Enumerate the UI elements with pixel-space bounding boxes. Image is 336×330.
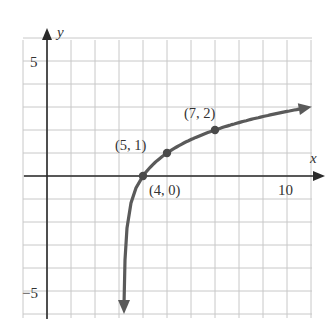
y-axis-arrow-icon [42,28,52,40]
tick-label-y5: 5 [30,54,38,70]
point-7-2 [211,126,219,134]
point-label-4-0: (4, 0) [149,182,181,199]
x-axis-arrow-icon [313,171,325,181]
point-label-7-2: (7, 2) [184,105,216,122]
tick-label-y-neg5: −5 [22,285,38,301]
x-axis-label: x [309,150,317,166]
point-label-5-1: (5, 1) [115,137,147,154]
curve-right-arrow-icon [298,103,312,115]
y-axis-label: y [55,24,64,40]
point-4-0 [139,172,147,180]
tick-label-x10: 10 [278,182,293,198]
curve-down-arrow-icon [118,300,130,314]
log-curve [124,108,304,305]
log-function-graph: y x 5 −5 10 (4, 0) (5, 1) (7, 2) [0,0,336,330]
grid-lines [23,38,312,318]
point-5-1 [163,149,171,157]
